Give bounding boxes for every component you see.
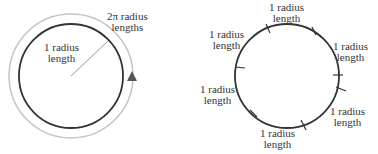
segment-label-lower-left: 1 radius length xyxy=(200,84,235,106)
segment-label-bottom: 1 radius length xyxy=(260,128,295,150)
segment-label-lower-right: 1 radius length xyxy=(330,106,365,128)
radius-label-line2: length xyxy=(44,53,79,64)
segment-label-line2: length xyxy=(200,95,235,106)
radius-label: 1 radius length xyxy=(44,42,79,64)
segment-label-line2: length xyxy=(269,13,304,24)
segmented-circle xyxy=(235,24,339,128)
segment-label-line2: length xyxy=(260,139,295,150)
segment-label-line2: length xyxy=(209,40,244,51)
diagram-canvas xyxy=(0,0,378,154)
direction-arrow-icon xyxy=(127,71,137,81)
segment-label-top: 1 radius length xyxy=(269,2,304,24)
segment-label-upper-right: 1 radius length xyxy=(333,41,368,63)
segment-label-upper-left: 1 radius length xyxy=(209,29,244,51)
segment-label-line2: length xyxy=(333,52,368,63)
segment-label-line2: length xyxy=(330,117,365,128)
circumference-label-line2: lengths xyxy=(107,22,148,33)
circumference-label: 2π radius lengths xyxy=(107,11,148,33)
